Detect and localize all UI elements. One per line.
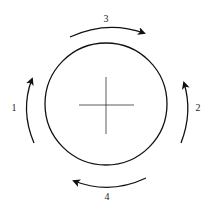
- label-2: 2: [196, 102, 201, 113]
- arrow-4-icon: [74, 178, 146, 187]
- arrow-2-icon: [181, 83, 188, 143]
- diagram-svg: 3 1 2 4: [0, 0, 212, 210]
- label-1: 1: [12, 102, 17, 113]
- rotation-diagram: 3 1 2 4: [0, 0, 212, 210]
- crosshair-icon: [79, 77, 134, 134]
- arrow-3-icon: [70, 27, 144, 37]
- label-3: 3: [104, 13, 109, 24]
- arrow-1-icon: [26, 79, 34, 143]
- label-4: 4: [105, 191, 110, 202]
